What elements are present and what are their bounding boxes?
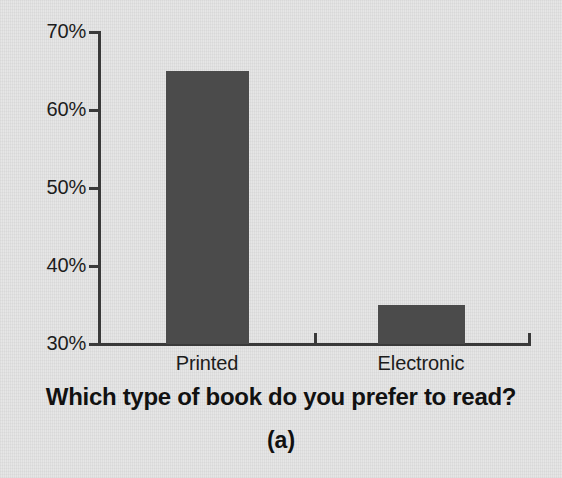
bar-electronic[interactable] [378,305,465,344]
panel-caption: (a) [0,427,562,454]
category-label-printed: Printed [137,352,277,375]
y-tick-70 [89,31,99,34]
x-tick-category-boundary [314,333,317,344]
y-tick-60 [89,109,99,112]
y-tick-label-30: 30% [26,333,86,353]
y-tick-50 [89,187,99,190]
y-tick-label-50: 50% [26,177,86,197]
y-tick-label-60: 60% [26,99,86,119]
bar-printed[interactable] [166,71,249,344]
y-tick-30 [89,343,99,346]
category-label-electronic: Electronic [351,352,491,375]
y-tick-label-40: 40% [26,255,86,275]
y-tick-40 [89,265,99,268]
y-tick-label-70: 70% [26,21,86,41]
x-tick-axis-end [528,333,531,344]
figure-panel-a: 70% 60% 50% 40% 30% Printed Electronic W… [0,0,562,478]
x-axis-title: Which type of book do you prefer to read… [0,383,562,411]
